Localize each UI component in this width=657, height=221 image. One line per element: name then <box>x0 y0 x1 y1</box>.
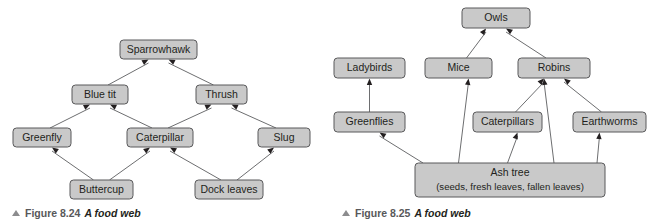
node-layer: OwlsLadybirdsMiceRobinsGreenfliesCaterpi… <box>334 8 646 197</box>
food-web-edge <box>596 133 601 164</box>
food-web-edge <box>170 148 221 181</box>
figure-8-25-caption: Figure 8.25 A food web <box>342 207 471 219</box>
food-web-edge <box>380 133 424 164</box>
svg-text:Ladybirds: Ladybirds <box>347 61 393 73</box>
food-web-edge <box>168 105 212 129</box>
food-web-node: Greenflies <box>334 112 405 132</box>
triangle-up-icon <box>342 210 350 216</box>
figure-8-25-panel: OwlsLadybirdsMiceRobinsGreenfliesCaterpi… <box>330 0 657 221</box>
figure-title: A food web <box>84 207 140 219</box>
svg-text:Earthworms: Earthworms <box>581 115 637 127</box>
food-web-edge <box>506 29 546 59</box>
svg-text:Owls: Owls <box>484 11 507 23</box>
food-web-edge <box>467 29 487 59</box>
food-web-edge <box>516 79 545 113</box>
food-web-node: Earthworms <box>573 112 646 132</box>
food-web-node: Robins <box>518 58 590 78</box>
svg-text:Greenfly: Greenfly <box>22 131 62 143</box>
figure-page: SparrowhawkBlue titThrushGreenflyCaterpi… <box>0 0 657 221</box>
food-web-edge <box>237 148 274 181</box>
svg-text:Slug: Slug <box>273 131 294 143</box>
svg-text:Greenflies: Greenflies <box>346 115 394 127</box>
food-web-edge <box>108 60 149 86</box>
edge-layer <box>367 29 602 164</box>
food-web-node: Ladybirds <box>334 58 405 78</box>
food-web-node: Thrush <box>196 85 247 104</box>
food-web-node: Mice <box>425 58 492 78</box>
food-web-edge <box>110 105 152 129</box>
food-web-edge <box>110 148 151 181</box>
svg-text:Caterpillar: Caterpillar <box>136 131 184 143</box>
svg-text:(seeds, fresh leaves, fallen l: (seeds, fresh leaves, fallen leaves) <box>436 181 584 192</box>
svg-text:Sparrowhawk: Sparrowhawk <box>127 43 191 55</box>
svg-text:Caterpillars: Caterpillars <box>481 115 534 127</box>
svg-text:Dock leaves: Dock leaves <box>200 183 257 195</box>
node-layer: SparrowhawkBlue titThrushGreenflyCaterpi… <box>13 40 310 199</box>
svg-text:Thrush: Thrush <box>205 88 238 100</box>
food-web-edge <box>542 79 554 164</box>
svg-text:Ash tree: Ash tree <box>490 166 529 178</box>
food-web-node: Caterpillars <box>473 112 542 132</box>
food-web-node: Owls <box>462 8 530 28</box>
food-web-edge <box>50 105 90 129</box>
figure-number: Figure 8.25 <box>355 207 410 219</box>
svg-text:Robins: Robins <box>538 61 571 73</box>
svg-text:Mice: Mice <box>447 61 469 73</box>
food-web-edge <box>564 79 602 113</box>
svg-text:Blue tit: Blue tit <box>84 88 116 100</box>
figure-8-24-caption: Figure 8.24 A food web <box>12 207 141 219</box>
food-web-node: Greenfly <box>13 128 71 147</box>
food-web-edge <box>232 105 277 129</box>
food-web-edge <box>52 148 94 181</box>
food-web-edge <box>459 79 471 164</box>
food-web-node: Dock leaves <box>195 180 263 199</box>
food-web-diagram-8-24: SparrowhawkBlue titThrushGreenflyCaterpi… <box>0 0 330 200</box>
figure-title: A food web <box>414 207 470 219</box>
food-web-node: Caterpillar <box>127 128 193 147</box>
food-web-node: Buttercup <box>70 180 133 199</box>
triangle-up-icon <box>12 210 20 216</box>
food-web-edge <box>508 133 518 164</box>
food-web-edge <box>169 60 214 86</box>
food-web-node: Ash tree(seeds, fresh leaves, fallen lea… <box>415 163 605 197</box>
edge-layer <box>50 60 276 181</box>
food-web-edge <box>367 79 372 113</box>
food-web-diagram-8-25: OwlsLadybirdsMiceRobinsGreenfliesCaterpi… <box>330 0 657 200</box>
svg-text:Buttercup: Buttercup <box>79 183 124 195</box>
figure-8-24-panel: SparrowhawkBlue titThrushGreenflyCaterpi… <box>0 0 330 221</box>
food-web-node: Blue tit <box>72 85 128 104</box>
figure-number: Figure 8.24 <box>25 207 80 219</box>
food-web-node: Sparrowhawk <box>120 40 197 59</box>
food-web-node: Slug <box>258 128 310 147</box>
